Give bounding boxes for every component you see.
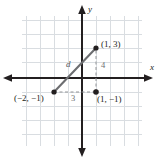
y-axis-label: y [88,5,92,14]
point-neg2-neg1 [51,89,56,94]
y-axis-top-arrow [78,5,86,14]
distance-segment [54,48,96,92]
x-axis-right-arrow [144,74,153,82]
distance-formula-figure: (1, 3) (−2, −1) (1, −1) 3 4 d x y [0,0,163,160]
y-axis-bottom-arrow [78,148,86,157]
point-label-neg2-neg1: (−2, −1) [14,94,44,103]
point-label-1-3: (1, 3) [101,40,121,49]
x-axis-label: x [150,63,154,72]
leg-label-horizontal: 3 [71,94,75,103]
coordinate-plane-svg [0,0,163,160]
x-axis-left-arrow [3,74,12,82]
point-label-1-neg1: (1, −1) [97,95,122,104]
leg-label-vertical: 4 [101,61,105,70]
distance-label: d [66,60,71,69]
point-1-3 [93,45,98,50]
